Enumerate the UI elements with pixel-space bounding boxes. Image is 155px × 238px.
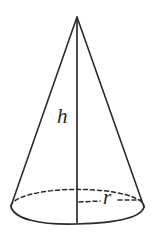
radius-label: r bbox=[103, 185, 112, 209]
cone-figure: h r bbox=[0, 0, 155, 238]
cone-svg: h r bbox=[0, 0, 155, 238]
radius-line-left-segment bbox=[79, 201, 100, 202]
height-label: h bbox=[57, 104, 68, 128]
right-slant-edge bbox=[77, 17, 144, 207]
